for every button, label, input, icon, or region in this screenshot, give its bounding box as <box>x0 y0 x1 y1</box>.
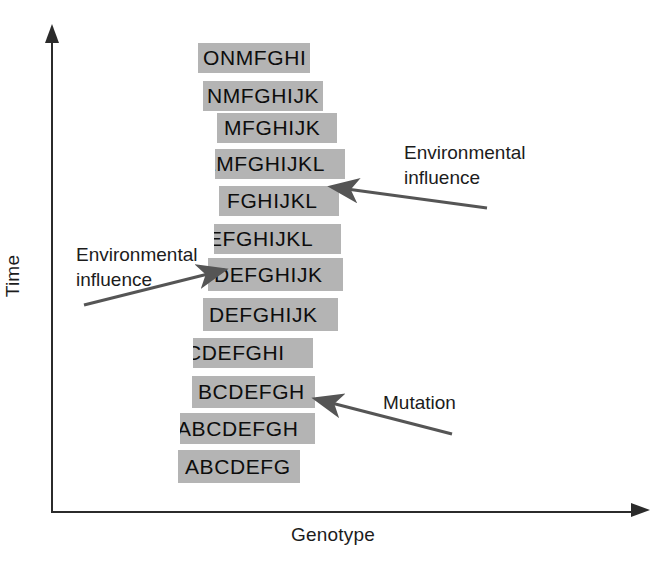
annotation-label-environmental-influence-right: Environmental influence <box>404 140 525 190</box>
annotation-arrow-icon <box>332 187 487 208</box>
evolution-diagram: Time Genotype ONMFGHINMFGHIJKMFGHIJKLMFG… <box>0 0 664 569</box>
annotation-label-environmental-influence-left: Environmental influence <box>76 242 197 292</box>
annotation-label-mutation: Mutation <box>383 390 456 415</box>
